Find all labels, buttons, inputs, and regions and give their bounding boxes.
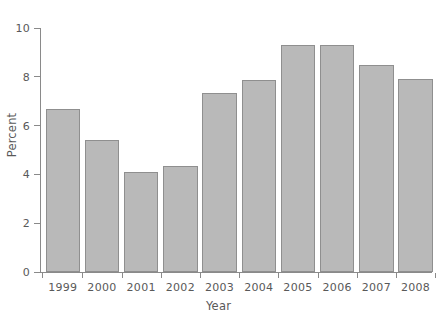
x-axis-tick bbox=[42, 273, 43, 278]
bar-2002 bbox=[163, 166, 198, 272]
bar-2003 bbox=[202, 93, 237, 272]
clipped-title-remnant bbox=[0, 0, 437, 1]
x-axis-tick bbox=[357, 273, 358, 278]
x-axis-tick bbox=[318, 273, 319, 278]
bar-2006 bbox=[320, 45, 355, 272]
y-axis-tick-label: 8 bbox=[0, 70, 30, 83]
y-axis-tick-label: 0 bbox=[0, 266, 30, 279]
plot-area bbox=[40, 28, 432, 272]
y-axis-tick-label: 10 bbox=[0, 22, 30, 35]
y-axis-tick-label: 2 bbox=[0, 217, 30, 230]
bar-2000 bbox=[85, 140, 120, 272]
x-axis-tick bbox=[161, 273, 162, 278]
x-axis-tick bbox=[278, 273, 279, 278]
y-axis-title: Percent bbox=[5, 95, 19, 175]
x-axis-tick bbox=[239, 273, 240, 278]
bar-2005 bbox=[281, 45, 316, 272]
x-axis-line bbox=[40, 272, 432, 273]
x-axis-tick-label-2008: 2008 bbox=[390, 281, 437, 294]
bar-chart: Percent Year 0246810 1999200020012002200… bbox=[0, 0, 437, 321]
x-axis-tick bbox=[435, 273, 436, 278]
x-axis-tick bbox=[200, 273, 201, 278]
bar-2007 bbox=[359, 65, 394, 272]
x-axis-tick bbox=[82, 273, 83, 278]
bar-2004 bbox=[242, 80, 277, 272]
bar-1999 bbox=[46, 109, 81, 272]
x-axis-tick bbox=[396, 273, 397, 278]
y-axis-tick-label: 6 bbox=[0, 119, 30, 132]
bar-2008 bbox=[398, 79, 433, 272]
x-axis-tick bbox=[122, 273, 123, 278]
y-axis-tick-label: 4 bbox=[0, 168, 30, 181]
x-axis-title: Year bbox=[0, 299, 437, 313]
bar-2001 bbox=[124, 172, 159, 272]
